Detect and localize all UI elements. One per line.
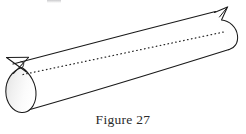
figure-caption: Figure 27 <box>0 112 246 128</box>
figure-container: Figure 27 <box>0 0 246 134</box>
cylinder-body-fill <box>7 9 239 112</box>
